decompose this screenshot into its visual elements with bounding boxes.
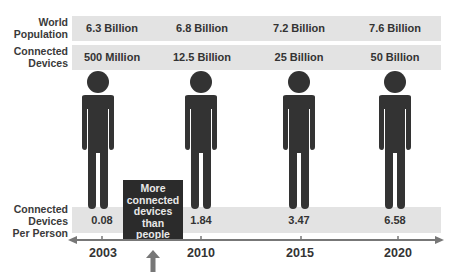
arrow-right-icon [435, 236, 444, 244]
world-population-2010: 6.8 Billion [157, 22, 247, 34]
callout-line: devices [123, 206, 183, 218]
label-line: World [0, 16, 68, 28]
label-line: Devices [0, 57, 68, 69]
arrow-left-icon [68, 236, 77, 244]
devices-per-person-2015: 3.47 [254, 214, 344, 226]
connected-devices-2015: 25 Billion [254, 51, 344, 63]
person-icon [76, 69, 120, 209]
person-icon [373, 69, 417, 209]
year-2015: 2015 [270, 246, 330, 260]
year-2010: 2010 [171, 246, 231, 260]
timeline-axis [0, 234, 450, 246]
callout-line: More [123, 183, 183, 195]
year-2020: 2020 [368, 246, 428, 260]
world-population-label: World Population [0, 16, 68, 40]
arrow-up-icon [146, 250, 160, 272]
callout-more-devices-than-people: More connected devices than people [123, 180, 183, 240]
label-line: Population [0, 28, 68, 40]
world-population-2015: 7.2 Billion [254, 22, 344, 34]
world-population-2020: 7.6 Billion [350, 22, 440, 34]
label-line: Connected [0, 45, 68, 57]
connected-devices-2020: 50 Billion [350, 51, 440, 63]
year-2003: 2003 [73, 246, 133, 260]
person-icon [179, 69, 223, 209]
connected-devices-label: Connected Devices [0, 45, 68, 69]
person-icon [277, 69, 321, 209]
world-population-2003: 6.3 Billion [67, 22, 157, 34]
connected-devices-2003: 500 Million [67, 51, 157, 63]
devices-per-person-2020: 6.58 [350, 214, 440, 226]
connected-devices-2010: 12.5 Billion [157, 51, 247, 63]
